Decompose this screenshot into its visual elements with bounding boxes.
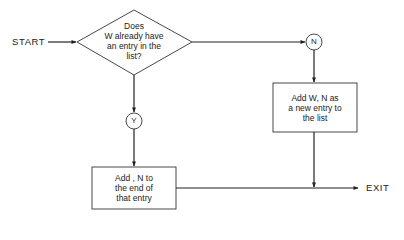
decision-text: Does W already have an entry in the list… xyxy=(94,21,174,61)
connector-y-label: Y xyxy=(126,116,142,126)
process-yes-line: that entry xyxy=(92,193,176,203)
decision-line: Does xyxy=(94,21,174,31)
process-no-line: the list xyxy=(273,113,357,123)
process-no-line: Add W, N as xyxy=(273,93,357,103)
process-no-text: Add W, N as a new entry to the list xyxy=(273,93,357,123)
connector-n-label: N xyxy=(306,37,322,47)
decision-line: W already have xyxy=(94,31,174,41)
process-yes-line: Add , N to xyxy=(92,173,176,183)
process-yes-text: Add , N to the end of that entry xyxy=(92,173,176,203)
exit-label: EXIT xyxy=(366,183,390,193)
start-label: START xyxy=(12,37,45,47)
process-yes-line: the end of xyxy=(92,183,176,193)
decision-line: an entry in the xyxy=(94,41,174,51)
decision-line: list? xyxy=(94,51,174,61)
process-no-line: a new entry to xyxy=(273,103,357,113)
